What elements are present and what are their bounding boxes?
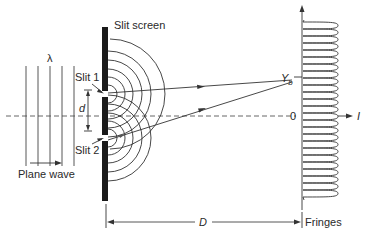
d-label: d xyxy=(79,102,86,114)
plane-wave-arrow xyxy=(30,161,62,166)
fringes-label: Fringes xyxy=(305,216,342,228)
plane-wave-label: Plane wave xyxy=(18,168,75,180)
slit1-label: Slit 1 xyxy=(75,71,99,83)
ray2-near-arrow xyxy=(119,135,125,139)
slit-screen xyxy=(102,27,108,201)
slit-screen-label: Slit screen xyxy=(114,19,165,31)
fringe-axis-arrow xyxy=(300,5,305,12)
distance-arrow-right xyxy=(294,220,301,225)
intensity-label: I xyxy=(357,110,360,122)
d-arrow-down xyxy=(86,125,90,131)
ray2-arrow xyxy=(198,108,206,112)
slit2-label: Slit 2 xyxy=(75,144,99,156)
slit1-wavefronts xyxy=(108,39,165,149)
origin-label: 0 xyxy=(290,110,296,122)
double-slit-diagram: λ Plane wave d Slit 1 Slit 2 Slit screen xyxy=(0,0,367,238)
lambda-label: λ xyxy=(47,52,53,64)
ray1-arrow xyxy=(197,85,205,89)
intensity-arrow xyxy=(346,114,353,119)
distance-arrow-left xyxy=(107,220,114,225)
distance-label: D xyxy=(199,216,207,228)
fringe-intensity-pattern xyxy=(303,20,338,200)
slit-separation-dimension xyxy=(84,90,92,131)
d-arrow-up xyxy=(86,90,90,96)
